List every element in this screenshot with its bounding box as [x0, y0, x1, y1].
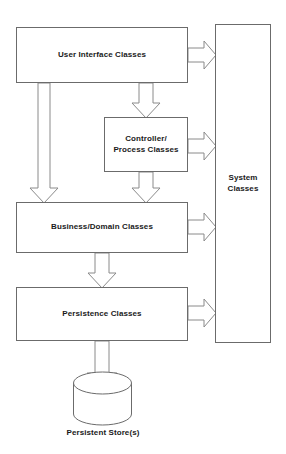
arrow-controller-to-system	[188, 132, 216, 160]
arrow-ui-to-business	[30, 83, 58, 203]
cylinder-top	[74, 372, 132, 394]
arrow-ui-to-system	[188, 41, 216, 69]
arrow-business-to-system	[188, 213, 216, 241]
arrow-persistence-to-system	[188, 299, 216, 327]
architecture-diagram: User Interface Classes Controller/ Proce…	[0, 0, 286, 454]
node-persistence-classes	[17, 288, 188, 341]
arrow-controller-to-business	[132, 172, 160, 203]
node-user-interface-classes	[17, 28, 188, 83]
arrow-business-to-persistence	[88, 253, 116, 288]
node-controller-process-classes	[105, 118, 188, 172]
node-business-domain-classes	[17, 203, 188, 253]
node-persistent-store-cylinder	[74, 372, 132, 425]
arrow-ui-to-controller	[132, 83, 160, 118]
node-system-classes	[216, 25, 271, 343]
diagram-canvas	[0, 0, 286, 454]
